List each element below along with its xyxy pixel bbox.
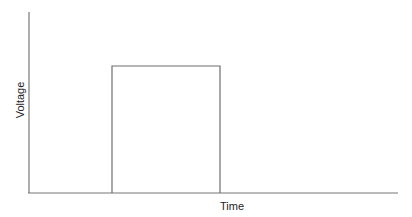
voltage-pulse (112, 66, 220, 193)
pulse-diagram (0, 0, 412, 217)
x-axis-label: Time (220, 200, 244, 212)
y-axis-label: Voltage (14, 82, 26, 119)
